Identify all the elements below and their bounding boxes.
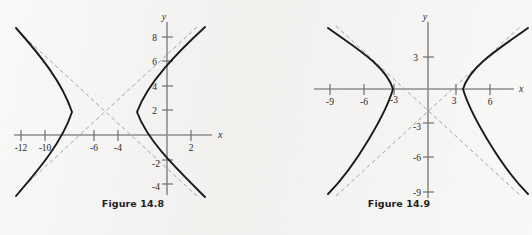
figure-14-9: -9 -6 -3 3 6 3 -3 -6 -9 x y Figure 14.9 (266, 0, 532, 235)
y-tick-label--3: -3 (413, 122, 421, 132)
hyperbola-left-branch (328, 28, 393, 194)
x-tick-label--6: -6 (90, 143, 98, 153)
x-axis-label: x (217, 129, 223, 140)
figure-14-8-plot: -12 -10 -6 -4 2 8 6 4 2 -2 -4 x y (0, 0, 266, 200)
y-axis-label: y (422, 11, 428, 22)
y-tick-label-2: 2 (152, 106, 157, 116)
asymptote-positive (19, 26, 198, 191)
y-tick-label-3: 3 (413, 53, 418, 63)
x-tick-label--3: -3 (390, 95, 398, 105)
y-tick-label--9: -9 (413, 188, 421, 198)
hyperbola-right-branch (463, 28, 528, 194)
y-tick-label-8: 8 (152, 33, 157, 43)
figure-page: -12 -10 -6 -4 2 8 6 4 2 -2 -4 x y Figure… (0, 0, 532, 235)
figure-14-8-caption: Figure 14.8 (0, 198, 266, 209)
y-tick-label-4: 4 (152, 82, 157, 92)
y-tick-label-6: 6 (152, 57, 157, 67)
figure-14-8: -12 -10 -6 -4 2 8 6 4 2 -2 -4 x y Figure… (0, 0, 266, 235)
asymptote-negative (19, 32, 198, 197)
y-tick-label--4: -4 (152, 182, 160, 192)
hyperbola-left-branch (16, 28, 72, 196)
x-tick-label-2: 2 (189, 143, 194, 153)
x-tick-label--6: -6 (360, 97, 368, 107)
x-tick-label--10: -10 (39, 143, 52, 153)
x-axis-label: x (518, 83, 524, 94)
x-tick-label-6: 6 (488, 97, 493, 107)
y-tick-label--6: -6 (413, 153, 421, 163)
y-tick-label--2: -2 (152, 159, 160, 169)
x-tick-label-3: 3 (452, 96, 457, 106)
y-axis-label: y (161, 11, 167, 22)
x-tick-label--9: -9 (326, 97, 334, 107)
x-tick-label--12: -12 (15, 143, 28, 153)
x-tick-label--4: -4 (114, 143, 122, 153)
figure-14-9-plot: -9 -6 -3 3 6 3 -3 -6 -9 x y (266, 0, 532, 200)
figure-14-9-caption: Figure 14.9 (266, 198, 532, 209)
